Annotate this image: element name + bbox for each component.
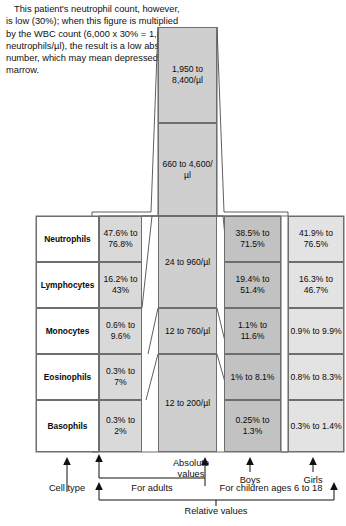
boys-value-neutrophils: 38.5% to 71.5% <box>224 216 281 262</box>
adults-value-lymphocytes: 16.2% to 43% <box>99 262 142 308</box>
axis-label-for-children: For children ages 6 to 18 <box>207 483 335 494</box>
adults-value-neutrophils: 47.6% to 76.8% <box>99 216 142 262</box>
boys-value-basophils: 0.25% to 1.3% <box>224 400 281 452</box>
boys-value-monocytes: 1.1% to 11.6% <box>224 308 281 354</box>
girls-value-neutrophils: 41.9% to 76.5% <box>288 216 344 262</box>
adults-value-monocytes: 0.6% to 9.6% <box>99 308 142 354</box>
adults-value-basophils: 0.3% to 2% <box>99 400 142 452</box>
girls-value-eosinophils: 0.8% to 8.3% <box>288 354 344 400</box>
boys-value-lymphocytes: 19.4% to 51.4% <box>224 262 281 308</box>
absolute-segment-eosinophils: 12 to 760/µl <box>158 308 217 354</box>
row-label-neutrophils: Neutrophils <box>36 216 99 262</box>
row-label-lymphocytes: Lymphocytes <box>36 262 99 308</box>
axis-label-relative-values: Relative values <box>166 506 266 517</box>
axis-label-absolute-values: Absolute values <box>160 458 222 480</box>
adults-value-eosinophils: 0.3% to 7% <box>99 354 142 400</box>
axis-label-for-adults: For adults <box>102 483 202 494</box>
row-label-eosinophils: Eosinophils <box>36 354 99 400</box>
figure-root: This patient's neutrophil count, however… <box>0 0 346 526</box>
row-label-basophils: Basophils <box>36 400 99 452</box>
absolute-segment-lymphocytes: 660 to 4,600/µl <box>158 123 217 216</box>
girls-value-monocytes: 0.9% to 9.9% <box>288 308 344 354</box>
girls-value-basophils: 0.3% to 1.4% <box>288 400 344 452</box>
boys-value-eosinophils: 1% to 8.1% <box>224 354 281 400</box>
absolute-segment-monocytes: 24 to 960/µl <box>158 216 217 308</box>
absolute-segment-basophils: 12 to 200/µl <box>158 354 217 452</box>
row-label-monocytes: Monocytes <box>36 308 99 354</box>
girls-value-lymphocytes: 16.3% to 46.7% <box>288 262 344 308</box>
absolute-segment-neutrophils: 1,950 to 8,400/µl <box>158 27 217 123</box>
